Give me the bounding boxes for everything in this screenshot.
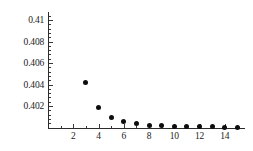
data-point [121, 119, 126, 124]
y-axis-tick-mark [49, 106, 53, 107]
y-axis-minor-tick [49, 46, 51, 47]
scatter-plot-area: 0.4020.4040.4060.4080.41 2468101214 [0, 0, 253, 151]
y-axis-minor-tick [49, 76, 51, 77]
y-axis-minor-tick [49, 115, 51, 116]
y-axis-minor-tick [49, 123, 51, 124]
y-axis-tick-label: 0.408 [24, 37, 44, 47]
x-axis-tick-label: 4 [89, 131, 109, 141]
x-axis-tick-label: 6 [114, 131, 134, 141]
y-axis-minor-tick [49, 67, 51, 68]
data-point [235, 125, 240, 130]
data-point [96, 105, 101, 110]
x-axis-minor-tick [61, 126, 62, 128]
x-axis-tick-mark [73, 124, 74, 128]
data-point [83, 80, 88, 85]
y-axis-minor-tick [49, 33, 51, 34]
data-point [109, 115, 114, 120]
y-axis-minor-tick [49, 16, 51, 17]
y-axis-tick-mark [49, 85, 53, 86]
y-axis-minor-tick [49, 119, 51, 120]
x-axis-tick-label: 8 [139, 131, 159, 141]
x-axis-tick-label: 14 [215, 131, 235, 141]
x-axis-line [48, 128, 245, 129]
y-axis-minor-tick [49, 110, 51, 111]
x-axis-minor-tick [86, 126, 87, 128]
y-axis-minor-tick [49, 89, 51, 90]
y-axis-tick-mark [49, 63, 53, 64]
y-axis-minor-tick [49, 93, 51, 94]
data-point [222, 125, 227, 130]
y-axis-minor-tick [49, 72, 51, 73]
x-axis-tick-mark [124, 124, 125, 128]
y-axis-minor-tick [49, 80, 51, 81]
y-axis-minor-tick [49, 102, 51, 103]
y-axis-minor-tick [49, 59, 51, 60]
y-axis-minor-tick [49, 97, 51, 98]
x-axis-minor-tick [111, 126, 112, 128]
x-axis-tick-label: 2 [63, 131, 83, 141]
chart-figure: 0.4020.4040.4060.4080.41 2468101214 [0, 0, 253, 151]
data-point [134, 121, 139, 126]
y-axis-tick-label: 0.406 [24, 58, 44, 68]
x-axis-tick-label: 10 [164, 131, 184, 141]
y-axis-minor-tick [49, 29, 51, 30]
y-axis-tick-mark [49, 42, 53, 43]
y-axis-minor-tick [49, 54, 51, 55]
data-point [147, 123, 152, 128]
x-axis-minor-tick [136, 126, 137, 128]
y-axis-minor-tick [49, 24, 51, 25]
y-axis-tick-label: 0.41 [28, 15, 44, 25]
y-axis-tick-mark [49, 20, 53, 21]
y-axis-minor-tick [49, 37, 51, 38]
y-axis-minor-tick [49, 50, 51, 51]
x-axis-tick-label: 12 [190, 131, 210, 141]
y-axis-tick-label: 0.404 [24, 80, 44, 90]
x-axis-tick-mark [99, 124, 100, 128]
y-axis-tick-label: 0.402 [24, 101, 44, 111]
data-point [172, 124, 177, 129]
